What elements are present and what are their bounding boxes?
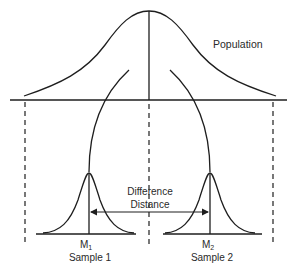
difference-label: Difference [127, 186, 173, 197]
sample2-mean-label: M2 [202, 239, 214, 251]
population-curve [24, 11, 276, 96]
population-label: Population [213, 38, 263, 50]
sampling-diagram: Population Difference Distance M1 Sample… [0, 0, 296, 269]
left-sampling-arc [89, 70, 129, 172]
right-sampling-arc [170, 70, 210, 172]
sample1-mean-label: M1 [80, 239, 92, 251]
sample2-name-label: Sample 2 [191, 252, 234, 263]
sample1-name-label: Sample 1 [69, 252, 112, 263]
distance-label: Distance [131, 199, 170, 210]
